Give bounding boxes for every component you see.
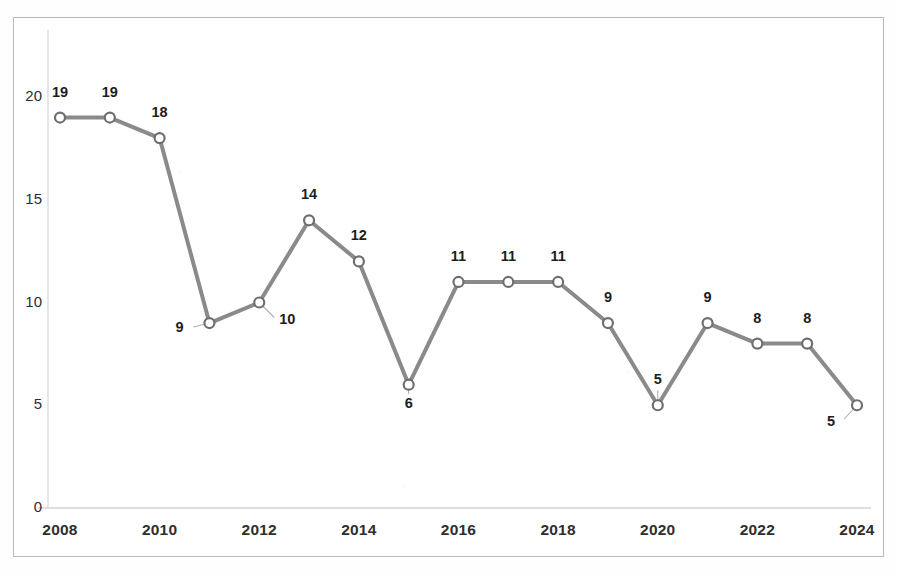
y-axis-tick-label: 0	[8, 498, 42, 515]
x-axis-tick-label: 2018	[523, 521, 593, 539]
x-axis-tick-label: 2022	[722, 521, 792, 539]
y-axis-tick-label: 10	[8, 293, 42, 310]
data-point-label: 10	[270, 311, 304, 327]
data-point-label: 9	[162, 319, 196, 335]
y-axis-tick-label: 15	[8, 190, 42, 207]
data-point-label: 18	[143, 104, 177, 120]
x-axis-tick-label: 2008	[25, 521, 95, 539]
x-axis-tick-label: 2020	[623, 521, 693, 539]
data-point-label: 11	[442, 248, 476, 264]
chart-page: 05101520 2008201020122014201620182020202…	[0, 0, 898, 573]
data-point-label: 8	[790, 310, 824, 326]
data-point-label: 19	[93, 84, 127, 100]
data-point-label: 5	[814, 413, 848, 429]
data-point-label: 11	[491, 248, 525, 264]
x-axis-tick-label: 2014	[324, 521, 394, 539]
line-chart-canvas	[0, 0, 898, 573]
x-axis-tick-label: 2010	[125, 521, 195, 539]
data-point-label: 12	[342, 227, 376, 243]
data-point-label: 9	[691, 289, 725, 305]
data-point-label: 6	[392, 395, 426, 411]
data-point-label: 19	[43, 84, 77, 100]
x-axis-tick-label: 2012	[224, 521, 294, 539]
axis-lines	[38, 30, 871, 508]
data-point-label: 9	[591, 289, 625, 305]
data-point-label: 5	[641, 371, 675, 387]
x-axis-tick-label: 2016	[424, 521, 494, 539]
x-axis-tick-label: 2024	[822, 521, 892, 539]
data-point-label: 8	[740, 310, 774, 326]
data-point-label: 14	[292, 186, 326, 202]
y-axis-tick-label: 5	[8, 395, 42, 412]
y-axis-tick-label: 20	[8, 87, 42, 104]
data-point-label: 11	[541, 248, 575, 264]
